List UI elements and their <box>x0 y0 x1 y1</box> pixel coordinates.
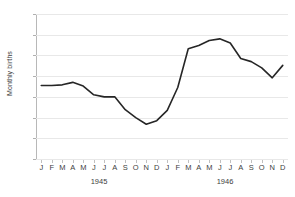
x-axis-tick-mark <box>262 160 263 163</box>
x-axis-tick-mark <box>188 160 189 163</box>
gridline <box>36 14 288 15</box>
y-axis-tick-mark <box>33 97 36 98</box>
gridline <box>36 55 288 56</box>
y-axis-tick-mark <box>33 159 36 160</box>
y-axis-title: Monthly births <box>6 36 13 112</box>
x-axis-tick-mark <box>146 160 147 163</box>
monthly-births-line-chart: Monthly births 7006005004003002001000 JF… <box>0 0 295 197</box>
y-axis-tick-mark <box>33 35 36 36</box>
x-axis-tick-mark <box>83 160 84 163</box>
x-axis-tick-label: D <box>276 164 290 172</box>
x-axis-tick-mark <box>41 160 42 163</box>
y-axis-tick-mark <box>33 118 36 119</box>
x-axis-tick-mark <box>241 160 242 163</box>
x-axis-tick-mark <box>272 160 273 163</box>
x-axis-tick-mark <box>136 160 137 163</box>
x-axis-group-label: 1945 <box>69 178 129 186</box>
x-axis-tick-mark <box>62 160 63 163</box>
gridline <box>36 97 288 98</box>
gridline <box>36 76 288 77</box>
x-axis-tick-mark <box>251 160 252 163</box>
x-axis-tick-mark <box>209 160 210 163</box>
x-axis-tick-mark <box>52 160 53 163</box>
gridline <box>36 118 288 119</box>
y-axis-tick-mark <box>33 138 36 139</box>
y-axis-tick-mark <box>33 14 36 15</box>
gridline <box>36 159 288 160</box>
x-axis-tick-mark <box>125 160 126 163</box>
x-axis-tick-mark <box>73 160 74 163</box>
gridline <box>36 138 288 139</box>
x-axis-tick-mark <box>199 160 200 163</box>
x-axis-tick-mark <box>230 160 231 163</box>
y-axis-tick-mark <box>33 76 36 77</box>
x-axis-tick-mark <box>178 160 179 163</box>
x-axis-group-label: 1946 <box>195 178 255 186</box>
x-axis-tick-mark <box>167 160 168 163</box>
y-axis-tick-mark <box>33 55 36 56</box>
x-axis-tick-mark <box>115 160 116 163</box>
x-axis-tick-mark <box>157 160 158 163</box>
x-axis-tick-mark <box>220 160 221 163</box>
x-axis-tick-mark <box>104 160 105 163</box>
x-axis-tick-mark <box>283 160 284 163</box>
x-axis-tick-mark <box>94 160 95 163</box>
gridline <box>36 35 288 36</box>
